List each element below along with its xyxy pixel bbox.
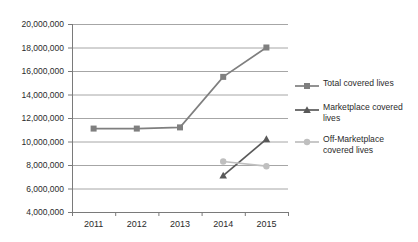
data-point-marker (91, 126, 97, 132)
data-point-marker (263, 45, 269, 51)
y-tick-label: 20,000,000 (0, 19, 64, 29)
series-line (223, 139, 266, 175)
legend-marker-square-icon (294, 81, 320, 91)
data-point-marker (304, 139, 310, 145)
y-tick-label: 4,000,000 (0, 207, 64, 217)
data-point-marker (134, 126, 140, 132)
y-tick-label: 16,000,000 (0, 66, 64, 76)
legend-marker-circle-icon (294, 137, 320, 147)
x-tick-label: 2011 (72, 219, 115, 229)
legend-marker-triangle-icon (294, 105, 320, 115)
legend-label: Marketplace covered lives (323, 102, 416, 123)
legend-item[interactable]: Marketplace covered lives (294, 102, 416, 123)
chart-legend: Total covered livesMarketplace covered l… (294, 78, 416, 166)
x-tick-label: 2015 (245, 219, 288, 229)
y-tick-label: 12,000,000 (0, 113, 64, 123)
x-tick-label: 2012 (115, 219, 158, 229)
legend-item[interactable]: Off-Marketplace covered lives (294, 134, 416, 155)
y-tick-label: 6,000,000 (0, 184, 64, 194)
legend-item[interactable]: Total covered lives (294, 78, 416, 91)
legend-label: Off-Marketplace covered lives (323, 134, 416, 155)
data-point-marker (220, 158, 226, 164)
data-point-marker (304, 83, 310, 89)
y-tick-label: 14,000,000 (0, 90, 64, 100)
legend-label: Total covered lives (323, 78, 416, 89)
data-point-marker (177, 124, 183, 130)
data-point-marker (263, 135, 271, 142)
x-tick-label: 2014 (202, 219, 245, 229)
y-tick-label: 18,000,000 (0, 43, 64, 53)
series-line (94, 48, 267, 129)
y-tick-label: 8,000,000 (0, 160, 64, 170)
line-chart: 20,000,00018,000,00016,000,00014,000,000… (0, 0, 418, 242)
data-point-marker (263, 163, 269, 169)
data-point-marker (220, 74, 226, 80)
y-tick-label: 10,000,000 (0, 137, 64, 147)
x-tick-label: 2013 (158, 219, 201, 229)
series-off-marketplace-covered-lives (220, 158, 270, 169)
